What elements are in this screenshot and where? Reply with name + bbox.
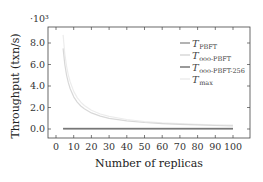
x-tick-label: 100	[224, 141, 242, 152]
x-tick-label: 50	[138, 141, 150, 152]
x-tick-label: 10	[68, 141, 80, 152]
x-tick-label: 70	[174, 141, 186, 152]
legend-label: Tmax	[192, 74, 213, 87]
y-tick-label: 2.0	[30, 102, 45, 113]
legend: TPBFTTooo-PBFTTooo-PBFT-256Tmax	[180, 38, 245, 87]
x-tick-label: 20	[85, 141, 97, 152]
x-tick-label: 90	[209, 141, 221, 152]
throughput-chart: 0102030405060708090100 0.02.04.06.08.0 ·…	[0, 0, 263, 182]
y-tick-label: 4.0	[30, 80, 45, 91]
legend-label: Tooo-PBFT-256	[192, 62, 245, 75]
y-axis-title: Throughput (txn/s)	[9, 33, 22, 138]
y-tick-label: 0.0	[30, 123, 45, 134]
x-axis-title: Number of replicas	[95, 157, 203, 170]
y-tick-label: 6.0	[30, 59, 45, 70]
y-tick-label: 8.0	[30, 37, 45, 48]
x-tick-label: 80	[192, 141, 204, 152]
x-tick-label: 40	[121, 141, 133, 152]
x-tick-label: 60	[156, 141, 168, 152]
x-tick-label: 0	[53, 141, 59, 152]
x-tick-label: 30	[103, 141, 115, 152]
y-scale-label: ·10³	[30, 13, 49, 24]
